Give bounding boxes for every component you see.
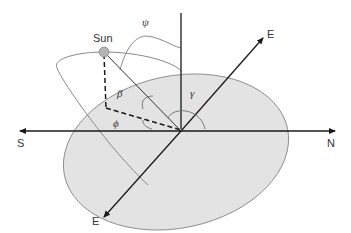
sun-label: Sun <box>93 32 113 44</box>
solar-angle-diagram: Sun ψ β γ ϕ S N E E <box>0 0 351 233</box>
sun-orbit-path-upper <box>103 52 182 72</box>
phi-label: ϕ <box>113 117 119 129</box>
psi-label: ψ <box>142 16 149 28</box>
east-bottom-label: E <box>92 215 99 227</box>
gamma-label: γ <box>190 87 195 99</box>
ground-plane <box>49 54 304 233</box>
east-top-label: E <box>267 28 274 40</box>
north-label: N <box>327 137 335 149</box>
beta-label: β <box>116 87 123 99</box>
sun-marker <box>99 47 109 57</box>
south-label: S <box>17 137 24 149</box>
